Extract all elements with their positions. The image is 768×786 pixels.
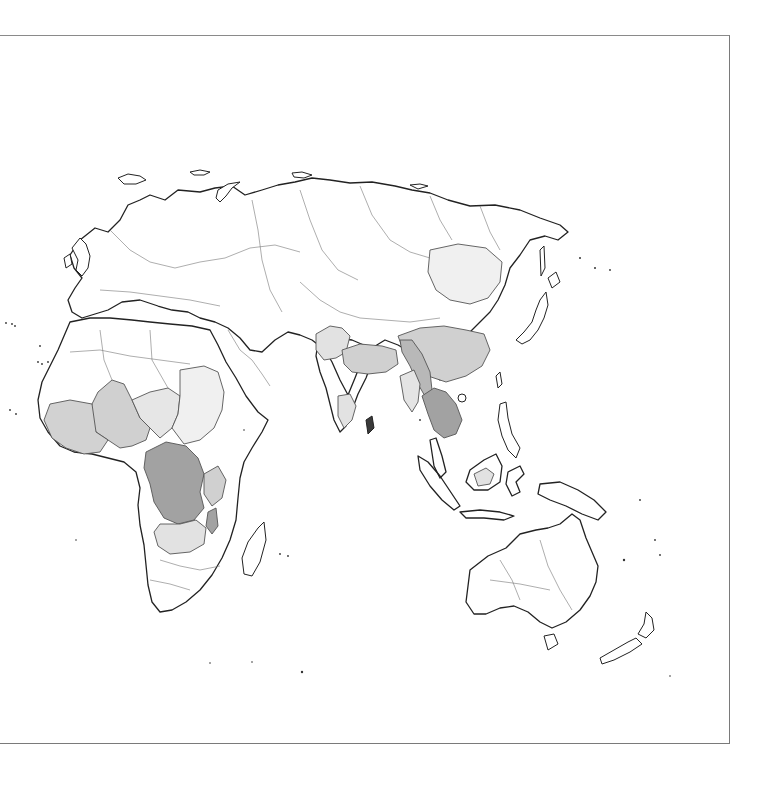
region-zambia[interactable] [154,520,206,554]
choropleth-map[interactable] [0,0,768,786]
region-east-africa[interactable] [204,466,226,506]
region-malawi[interactable] [206,508,218,534]
region-ireland[interactable] [64,254,72,268]
region-hainan[interactable] [458,394,466,402]
region-south-india[interactable] [338,394,356,428]
region-australia[interactable] [466,514,598,628]
region-sulawesi[interactable] [506,466,524,496]
region-sri-lanka[interactable] [366,416,374,434]
region-taiwan[interactable] [496,372,502,388]
region-sudan[interactable] [172,366,224,444]
region-malay-peninsula[interactable] [430,438,446,478]
region-new-siberian[interactable] [410,184,428,189]
region-nz-north[interactable] [638,612,654,638]
region-dr-congo[interactable] [144,442,204,524]
region-severnaya-zemlya[interactable] [292,172,312,178]
region-franz-josef[interactable] [190,170,210,175]
region-sakhalin[interactable] [540,246,545,276]
region-ne-china[interactable] [428,244,502,304]
region-borneo-interior[interactable] [474,468,494,486]
region-japan[interactable] [516,292,548,344]
region-tasmania[interactable] [544,634,558,650]
region-java[interactable] [460,510,514,520]
region-myanmar[interactable] [400,370,420,412]
region-philippines[interactable] [498,402,520,458]
small-islands [5,257,671,677]
region-hokkaido[interactable] [548,272,560,288]
region-svalbard[interactable] [118,174,146,184]
region-sumatra[interactable] [418,456,460,510]
region-indochina[interactable] [422,388,462,438]
region-central-india[interactable] [342,344,398,374]
region-novaya-zemlya[interactable] [216,182,240,202]
region-nz-south[interactable] [600,638,642,664]
region-uk[interactable] [72,238,90,276]
region-madagascar[interactable] [242,522,266,576]
